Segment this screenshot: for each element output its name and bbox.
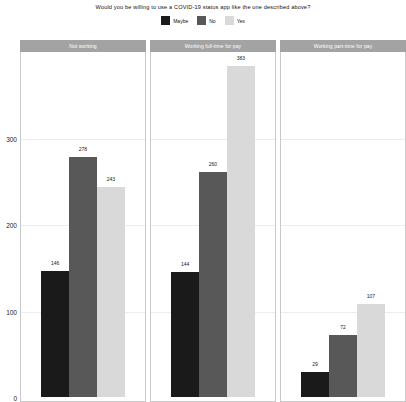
bar-value-label: 243 [97,176,125,182]
bar-column[interactable]: 260 [199,52,227,397]
bar-column[interactable]: 243 [97,52,125,397]
legend-label: Maybe [173,18,188,24]
bar[interactable] [69,157,97,397]
y-axis-tick-label: 300 [6,135,17,142]
legend-swatch-icon [161,16,170,25]
legend-swatch-icon [225,16,234,25]
facet-panel: Not working146278243 [20,40,146,402]
bar[interactable] [301,372,329,397]
y-axis-tick-label: 0 [13,395,17,402]
legend-swatch-icon [197,16,206,25]
bar-value-label: 144 [171,261,199,267]
facet-panel-header: Working full-time for pay [150,40,276,52]
legend-label: Yes [237,18,245,24]
y-axis-tick-label: 100 [6,308,17,315]
bar-group: 2972107 [281,52,405,401]
facet-panel-header: Not working [20,40,146,52]
chart-legend: MaybeNoYes [0,16,406,25]
y-axis: 0100200300 [0,40,20,402]
facet-panel-body: 144260383 [150,52,276,402]
bar-column[interactable]: 278 [69,52,97,397]
facet-panel-header: Working part-time for pay [280,40,406,52]
y-axis-tick-label: 200 [6,222,17,229]
facet-panel-title: Not working [69,43,97,49]
bar-column[interactable]: 107 [357,52,385,397]
bar-value-label: 278 [69,146,97,152]
chart-title: Would you be willing to use a COVID-19 s… [0,4,406,10]
bar-value-label: 383 [227,55,255,61]
bar-column[interactable]: 29 [301,52,329,397]
facet-panel: Working part-time for pay2972107 [280,40,406,402]
bar[interactable] [329,335,357,397]
legend-item: Maybe [161,16,188,25]
bar-column[interactable]: 72 [329,52,357,397]
facet-panel-body: 146278243 [20,52,146,402]
facet-panels: Not working146278243Working full-time fo… [20,40,406,402]
bar-value-label: 107 [357,293,385,299]
bar-column[interactable]: 146 [41,52,69,397]
bar[interactable] [97,187,125,397]
facet-panel-body: 2972107 [280,52,406,402]
legend-label: No [209,18,215,24]
bar[interactable] [199,172,227,397]
legend-item: Yes [225,16,245,25]
bar-value-label: 146 [41,260,69,266]
bar-column[interactable]: 144 [171,52,199,397]
facet-panel-title: Working part-time for pay [314,43,373,49]
bar-value-label: 260 [199,161,227,167]
bar-value-label: 72 [329,324,357,330]
facet-panel-title: Working full-time for pay [185,43,241,49]
plot-region: 0100200300 Not working146278243Working f… [0,40,406,402]
bar-column[interactable]: 383 [227,52,255,397]
bar[interactable] [357,304,385,397]
facet-panel: Working full-time for pay144260383 [150,40,276,402]
bar-value-label: 29 [301,361,329,367]
bar-group: 144260383 [151,52,275,401]
legend-item: No [197,16,215,25]
bar[interactable] [227,66,255,397]
bar-group: 146278243 [21,52,145,401]
bar[interactable] [171,272,199,397]
bar[interactable] [41,271,69,397]
